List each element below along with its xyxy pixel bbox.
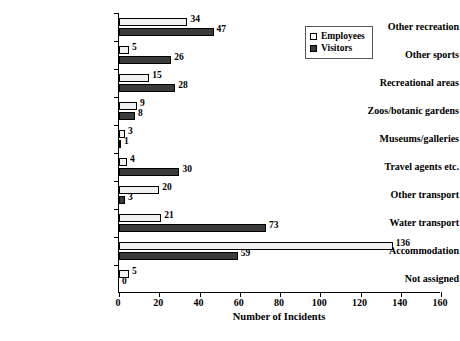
x-axis-title: Number of Incidents: [118, 311, 440, 322]
bar-group: 526: [119, 41, 440, 69]
legend-item-visitors: Visitors: [310, 42, 368, 54]
x-axis-tick-label: 80: [259, 297, 299, 308]
bar-value-label: 59: [241, 249, 251, 258]
x-axis-tick-label: 160: [420, 297, 460, 308]
legend-swatch-employees-icon: [310, 33, 317, 40]
y-axis-tick: [114, 265, 119, 266]
x-axis-tick-label: 100: [299, 297, 339, 308]
bar-employees: [119, 18, 187, 26]
bar-visitors: [119, 224, 266, 232]
bar-visitors: [119, 56, 171, 64]
bar-visitors: [119, 168, 179, 176]
x-axis-tick-label: 120: [340, 297, 380, 308]
bar-group: 3447: [119, 13, 440, 41]
bar-group: 98: [119, 97, 440, 125]
bar-group: 50: [119, 265, 440, 293]
y-axis-tick: [114, 237, 119, 238]
y-axis-tick: [114, 125, 119, 126]
bar-employees: [119, 158, 127, 166]
bar-value-label: 21: [164, 211, 174, 220]
bar-group: 430: [119, 153, 440, 181]
bar-employees: [119, 46, 129, 54]
bar-employees: [119, 186, 159, 194]
bar-value-label: 47: [217, 25, 227, 34]
bar-visitors: [119, 84, 175, 92]
bar-group: 31: [119, 125, 440, 153]
bar-value-label: 8: [138, 109, 143, 118]
bar-employees: [119, 242, 393, 250]
bar-group: 2173: [119, 209, 440, 237]
y-axis-tick: [114, 69, 119, 70]
bar-value-label: 4: [130, 155, 135, 164]
bar-value-label: 73: [269, 221, 279, 230]
bar-value-label: 28: [178, 81, 188, 90]
bar-value-label: 136: [396, 239, 410, 248]
bar-value-label: 34: [190, 15, 200, 24]
bar-visitors: [119, 140, 121, 148]
bar-employees: [119, 102, 137, 110]
legend-item-employees: Employees: [310, 30, 368, 42]
plot-area: 34475261528983143020321731365950: [118, 13, 440, 293]
y-axis-tick: [114, 97, 119, 98]
legend-label-employees: Employees: [321, 31, 365, 41]
x-axis-tick-label: 60: [219, 297, 259, 308]
bar-group: 1528: [119, 69, 440, 97]
bar-visitors: [119, 28, 214, 36]
bar-visitors: [119, 196, 125, 204]
x-axis-tick-label: 20: [138, 297, 178, 308]
bar-visitors: [119, 252, 238, 260]
legend-swatch-visitors-icon: [310, 45, 317, 52]
chart-legend: Employees Visitors: [305, 26, 373, 59]
bar-group: 203: [119, 181, 440, 209]
x-axis-tick-label: 140: [380, 297, 420, 308]
y-axis-tick: [114, 209, 119, 210]
bar-value-label: 26: [174, 53, 184, 62]
y-axis-tick: [114, 13, 119, 14]
y-axis-tick: [114, 181, 119, 182]
bar-value-label: 1: [124, 137, 129, 146]
bar-group: 13659: [119, 237, 440, 265]
cropped-caption-strip: [0, 334, 459, 341]
bar-employees: [119, 214, 161, 222]
bar-value-label: 30: [182, 165, 192, 174]
y-axis-tick: [114, 153, 119, 154]
bar-value-label: 9: [140, 99, 145, 108]
y-axis-tick: [114, 41, 119, 42]
x-axis-tick-label: 40: [179, 297, 219, 308]
bar-value-label: 15: [152, 71, 162, 80]
legend-label-visitors: Visitors: [321, 43, 352, 53]
bar-value-label: 3: [128, 193, 133, 202]
bar-employees: [119, 74, 149, 82]
bar-value-label: 5: [132, 267, 137, 276]
bar-value-label: 20: [162, 183, 172, 192]
bar-value-label: 5: [132, 43, 137, 52]
bar-value-label: 3: [128, 127, 133, 136]
x-axis-tick-label: 0: [98, 297, 138, 308]
bar-value-label: 0: [122, 277, 127, 286]
bar-visitors: [119, 112, 135, 120]
